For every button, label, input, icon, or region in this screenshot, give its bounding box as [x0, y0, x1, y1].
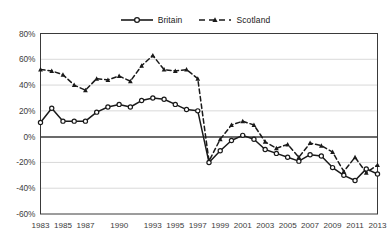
x-axis-tick-label: 1983: [31, 221, 50, 230]
x-axis-tick-label: 1995: [166, 221, 185, 230]
data-point-britain: [207, 160, 211, 164]
y-axis-tick-label: 20%: [19, 106, 36, 116]
data-point-britain: [106, 105, 110, 109]
x-axis-tick-label: 2007: [301, 221, 320, 230]
chart-gridlines: [41, 59, 378, 188]
data-point-scotland: [285, 142, 290, 147]
x-axis-tick-label: 1990: [110, 221, 129, 230]
x-axis-tick-label: 1999: [211, 221, 230, 230]
data-point-scotland: [61, 72, 66, 77]
x-axis-tick-label: 2013: [368, 221, 387, 230]
x-axis-tick-label: 2011: [346, 221, 364, 230]
chart-series-britain: [38, 96, 379, 183]
data-point-britain: [151, 96, 155, 100]
data-point-britain: [252, 137, 256, 141]
data-point-britain: [140, 98, 144, 102]
data-point-britain: [364, 167, 368, 171]
y-axis-tick-label: -20%: [16, 157, 36, 167]
data-point-britain: [61, 119, 65, 123]
series-line-scotland: [41, 55, 378, 172]
data-point-scotland: [117, 74, 122, 79]
data-point-britain: [162, 97, 166, 101]
y-axis-tick-label: 80%: [19, 29, 36, 39]
data-point-britain: [117, 102, 121, 106]
data-point-scotland: [353, 155, 358, 160]
x-axis-tick-label: 2001: [234, 221, 253, 230]
data-point-britain: [342, 173, 346, 177]
data-point-scotland: [375, 163, 380, 168]
x-axis-tick-label: 1987: [76, 221, 95, 230]
data-point-britain: [274, 151, 278, 155]
data-point-britain: [184, 107, 188, 111]
y-axis-tick-label: -40%: [16, 183, 36, 193]
data-point-britain: [38, 120, 42, 124]
data-point-britain: [263, 147, 267, 151]
x-axis-tick-label: 2003: [256, 221, 275, 230]
data-point-britain: [353, 178, 357, 182]
chart-series-scotland: [38, 53, 380, 175]
y-axis-tick-label: 60%: [19, 54, 36, 64]
data-point-britain: [218, 149, 222, 153]
data-point-britain: [95, 110, 99, 114]
chart-x-axis-labels: 1983198519871990199319951997199920012003…: [31, 221, 387, 230]
data-point-britain: [375, 172, 379, 176]
chart-y-axis-labels: 80%60%40%20%0%-20%-40%-60%: [16, 29, 36, 220]
y-axis-tick-label: 40%: [19, 80, 36, 90]
chart-container: Britain Scotland 80%60%40%20%0%-20%-40%-…: [0, 0, 390, 245]
data-point-britain: [330, 165, 334, 169]
x-axis-tick-label: 2005: [279, 221, 298, 230]
data-point-britain: [297, 159, 301, 163]
x-axis-tick-label: 2009: [324, 221, 343, 230]
data-point-britain: [196, 109, 200, 113]
data-point-britain: [286, 155, 290, 159]
data-point-britain: [229, 138, 233, 142]
data-point-britain: [83, 119, 87, 123]
data-point-britain: [319, 154, 323, 158]
x-axis-tick-label: 1993: [144, 221, 163, 230]
data-point-scotland: [150, 53, 155, 58]
x-axis-tick-label: 1997: [189, 221, 208, 230]
data-point-britain: [241, 133, 245, 137]
chart-plot-frame: [41, 34, 378, 215]
data-point-britain: [128, 105, 132, 109]
data-point-scotland: [240, 119, 245, 124]
data-point-britain: [308, 153, 312, 157]
data-point-britain: [50, 106, 54, 110]
x-axis-tick-label: 1985: [54, 221, 73, 230]
y-axis-tick-label: 0%: [24, 132, 37, 142]
data-point-britain: [173, 102, 177, 106]
series-line-britain: [41, 98, 378, 181]
data-point-britain: [72, 119, 76, 123]
y-axis-tick-label: -60%: [16, 209, 36, 219]
chart-plot-area: 80%60%40%20%0%-20%-40%-60% 1983198519871…: [0, 0, 390, 245]
